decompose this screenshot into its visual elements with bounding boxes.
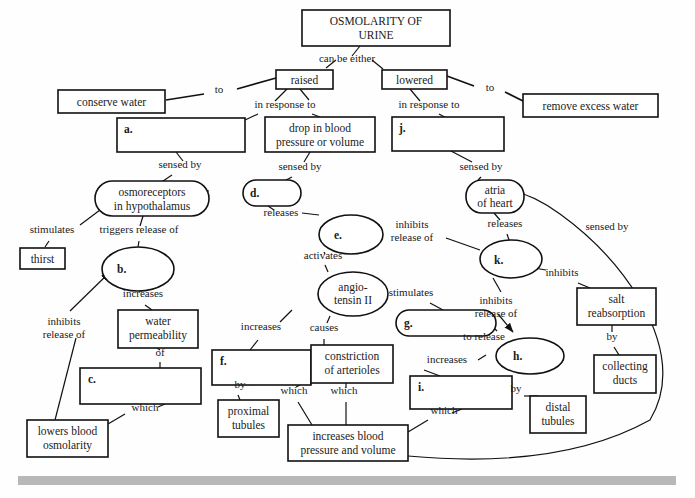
link-label: which [331,384,358,396]
link-label: by [235,378,247,390]
node-drop-line1: drop in blood [289,122,351,135]
link-label: inhibits [545,266,578,278]
link-label: to release [463,330,505,342]
node-water-line2: permeability [129,329,187,342]
node-atria-line2: of heart [477,197,513,209]
node-blank-a[interactable] [117,118,245,152]
node-lowers-line2: osmolarity [43,439,92,452]
node-constrict-line2: of arterioles [324,364,380,376]
node-osmoreceptors-line2: in hypothalamus [114,200,191,213]
link-label: of [155,346,165,358]
node-blank-e-label: e. [334,229,342,241]
node-osmoreceptors-line1: osmoreceptors [118,186,186,199]
link-label: by [607,330,619,342]
node-water-line1: water [145,315,171,327]
node-salt-line1: salt [609,293,626,305]
node-root-line1: OSMOLARITY OF [330,15,423,27]
link-label: increases [241,320,281,332]
link-label: in response to [254,98,316,110]
node-blank-h[interactable] [496,338,564,374]
node-constrict-line1: constriction [325,350,380,362]
node-blank-b[interactable] [102,247,174,291]
link-label: to [215,83,224,95]
node-blank-i-label: i. [418,381,424,393]
link-label: sensed by [459,160,503,172]
node-blank-g-label: g. [404,317,413,330]
node-incbp-line1: increases blood [312,430,383,442]
link-label: in response to [398,98,460,110]
node-blank-b-label: b. [117,263,126,275]
footer-bar [18,476,676,485]
node-blank-d-label: d. [250,187,259,199]
node-raised-label: raised [291,74,319,86]
node-distal-line2: tubules [541,415,575,427]
link-label: causes [310,321,339,333]
node-blank-f[interactable] [212,350,311,385]
link-label: releases [264,206,299,218]
node-angio-line1: angio- [338,281,368,294]
link-label: activates [304,249,342,261]
link-label: inhibitsrelease of [43,315,86,340]
link-label: which [132,401,159,413]
node-thirst-label: thirst [31,253,55,265]
link-label: inhibitsrelease of [475,294,518,319]
node-blank-f-label: f. [220,355,227,367]
concept-map-svg: OSMOLARITY OF URINE raised lowered conse… [0,0,695,498]
concept-map-canvas: OSMOLARITY OF URINE raised lowered conse… [0,0,695,498]
link-label: sensed by [585,220,629,232]
node-blank-i[interactable] [410,376,512,409]
node-incbp-line2: pressure and volume [300,444,395,457]
node-proximal-line1: proximal [228,405,270,418]
link-label: inhibitsrelease of [391,218,434,243]
node-collecting-line2: ducts [613,374,638,386]
node-blank-c-label: c. [88,373,96,385]
node-blank-k-label: k. [494,254,503,266]
node-angio-line2: tensin II [334,294,372,306]
link-label: stimulates [389,286,434,298]
link-label: which [281,384,308,396]
link-label: sensed by [278,160,322,172]
node-salt-line2: reabsorption [588,307,646,320]
node-conserve-water-label: conserve water [77,96,146,108]
node-distal-line1: distal [546,401,571,413]
node-lowered-label: lowered [396,74,433,86]
link-label: sensed by [158,158,202,170]
node-collecting-line1: collecting [602,360,648,373]
link-label: triggers release of [100,223,179,235]
link-label: by [511,382,523,394]
node-lowers-line1: lowers blood [38,425,98,437]
node-blank-k[interactable] [480,240,542,278]
node-blank-a-label: a. [124,123,133,135]
link-label: to [486,81,495,93]
node-blank-j-label: j. [398,122,406,135]
link-label: increases [123,287,163,299]
link-label: increases [427,353,467,365]
node-blank-c[interactable] [80,368,201,404]
node-blank-h-label: h. [513,350,522,362]
node-atria-line1: atria [485,184,505,196]
node-drop-line2: pressure or volume [276,136,364,149]
node-blank-j[interactable] [392,117,504,151]
link-label: releases [488,217,523,229]
link-label: stimulates [30,223,75,235]
node-proximal-line2: tubules [232,419,266,431]
node-remove-excess-water-label: remove excess water [543,100,639,112]
node-root-line2: URINE [358,29,393,41]
link-label: which [431,404,458,416]
link-label: can be either [319,52,376,64]
